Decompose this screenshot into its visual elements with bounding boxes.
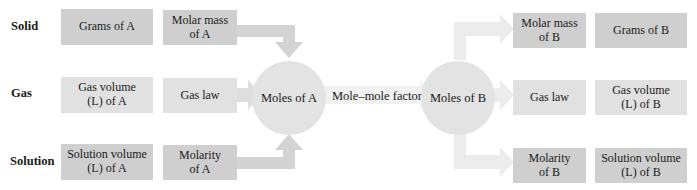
- box-molarity-of-b: Molarity of B: [513, 148, 586, 183]
- mole-conversion-diagram: Solid Gas Solution Grams of A Gas volume…: [0, 0, 697, 190]
- box-solution-volume-of-a: Solution volume (L) of A: [61, 144, 153, 180]
- box-gas-law-b: Gas law: [513, 80, 586, 115]
- row-label-solid: Solid: [11, 20, 38, 33]
- box-gas-law-a: Gas law: [163, 78, 237, 113]
- arrow-moles-b-to-solid: [454, 14, 514, 60]
- arrow-solid-to-moles-a: [236, 25, 303, 58]
- box-gas-volume-of-a: Gas volume (L) of A: [61, 77, 153, 113]
- box-solution-volume-of-b: Solution volume (L) of B: [595, 148, 687, 183]
- box-grams-of-b: Grams of B: [595, 13, 687, 48]
- circle-moles-of-b: Moles of B: [421, 61, 495, 135]
- moles-of-b-label: Moles of B: [430, 91, 486, 106]
- circle-moles-of-a: Moles of A: [252, 61, 326, 135]
- row-label-gas: Gas: [11, 87, 32, 100]
- box-grams-of-a: Grams of A: [61, 9, 153, 45]
- box-molar-mass-of-b: Molar mass of B: [513, 13, 586, 48]
- arrow-moles-b-to-solution: [454, 130, 514, 177]
- box-molarity-of-a: Molarity of A: [163, 145, 237, 180]
- arrow-solution-to-moles-a: [236, 134, 303, 169]
- box-gas-volume-of-b: Gas volume (L) of B: [595, 80, 687, 115]
- box-molar-mass-of-a: Molar mass of A: [163, 10, 237, 45]
- row-label-solution: Solution: [10, 155, 54, 168]
- mole-mole-factor-label: Mole–mole factor: [332, 89, 422, 104]
- moles-of-a-label: Moles of A: [261, 91, 317, 106]
